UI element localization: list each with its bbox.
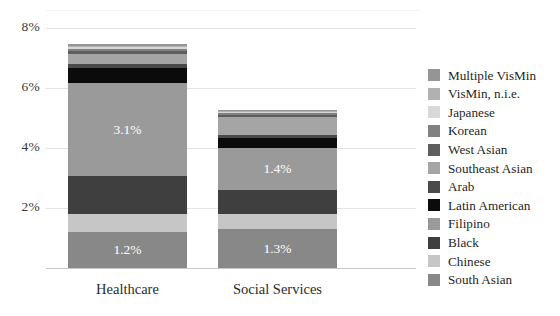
bar-segment-black (218, 190, 337, 214)
legend-item-label: Korean (448, 124, 487, 137)
legend-swatch-icon (428, 106, 440, 118)
bar-segment-vismin-n-i-e (68, 46, 187, 48)
y-tick-label: 8% (0, 19, 40, 35)
bar-segment-multiple-vismin (218, 110, 337, 112)
legend-item-label: West Asian (448, 143, 507, 156)
bar-segment-vismin-n-i-e (218, 111, 337, 112)
legend-item-label: Black (448, 236, 479, 249)
bar-segment-korean (218, 113, 337, 115)
gridline-8 (46, 28, 416, 29)
bar-segment-chinese (218, 214, 337, 229)
legend-item[interactable]: South Asian (428, 271, 560, 290)
bar-healthcare: 1.2%3.1% (68, 44, 187, 268)
legend-item[interactable]: Korean (428, 122, 560, 141)
legend: Multiple VisMinVisMin, n.i.e.JapaneseKor… (428, 66, 560, 289)
legend-swatch-icon (428, 144, 440, 156)
legend-item[interactable]: Arab (428, 178, 560, 197)
legend-item[interactable]: Latin American (428, 196, 560, 215)
bar-segment-west-asian (218, 115, 337, 117)
plot-area: 2%4%6%8% 1.2%3.1%1.3%1.4% HealthcareSoci… (0, 0, 420, 316)
bar-segment-arab (218, 135, 337, 138)
legend-swatch-icon (428, 218, 440, 230)
legend-swatch-icon (428, 199, 440, 211)
legend-swatch-icon (428, 181, 440, 193)
legend-item-label: VisMin, n.i.e. (448, 87, 520, 100)
legend-item-label: Filipino (448, 217, 490, 230)
bar-segment-japanese (218, 112, 337, 113)
bar-segment-filipino (68, 83, 187, 176)
legend-item-label: Japanese (448, 106, 495, 119)
legend-item[interactable]: Black (428, 233, 560, 252)
legend-item-label: Chinese (448, 255, 491, 268)
stacked-bar-chart: 2%4%6%8% 1.2%3.1%1.3%1.4% HealthcareSoci… (0, 0, 560, 316)
legend-swatch-icon (428, 162, 440, 174)
bar-social-services: 1.3%1.4% (218, 110, 337, 268)
bar-segment-south-asian (218, 229, 337, 268)
bar-segment-black (68, 176, 187, 214)
legend-item-label: Arab (448, 180, 474, 193)
bar-segment-chinese (68, 214, 187, 232)
x-tick-label-social-services: Social Services (188, 281, 368, 298)
legend-item[interactable]: Japanese (428, 103, 560, 122)
legend-swatch-icon (428, 69, 440, 81)
legend-item[interactable]: West Asian (428, 140, 560, 159)
bar-segment-south-asian (68, 232, 187, 268)
legend-item-label: Southeast Asian (448, 162, 533, 175)
bar-segment-latin-american (218, 138, 337, 148)
bar-segment-southeast-asian (68, 54, 187, 64)
bar-segment-southeast-asian (218, 117, 337, 135)
legend-swatch-icon (428, 88, 440, 100)
bar-segment-korean (68, 49, 187, 51)
y-tick-label: 6% (0, 79, 40, 95)
legend-item[interactable]: Southeast Asian (428, 159, 560, 178)
legend-item-label: Latin American (448, 199, 530, 212)
legend-swatch-icon (428, 237, 440, 249)
y-tick-label: 4% (0, 139, 40, 155)
legend-swatch-icon (428, 274, 440, 286)
legend-item-label: Multiple VisMin (448, 69, 536, 82)
legend-item[interactable]: Multiple VisMin (428, 66, 560, 85)
y-tick-label: 2% (0, 199, 40, 215)
bar-segment-latin-american (68, 68, 187, 83)
legend-item[interactable]: Filipino (428, 215, 560, 234)
bar-segment-arab (68, 64, 187, 69)
legend-swatch-icon (428, 125, 440, 137)
bar-segment-west-asian (68, 51, 187, 54)
bar-segment-japanese (68, 47, 187, 49)
legend-item[interactable]: Chinese (428, 252, 560, 271)
legend-item-label: South Asian (448, 273, 512, 286)
legend-item[interactable]: VisMin, n.i.e. (428, 85, 560, 104)
legend-swatch-icon (428, 255, 440, 267)
bar-segment-filipino (218, 148, 337, 190)
bar-segment-multiple-vismin (68, 44, 187, 46)
axis-baseline (46, 268, 416, 269)
